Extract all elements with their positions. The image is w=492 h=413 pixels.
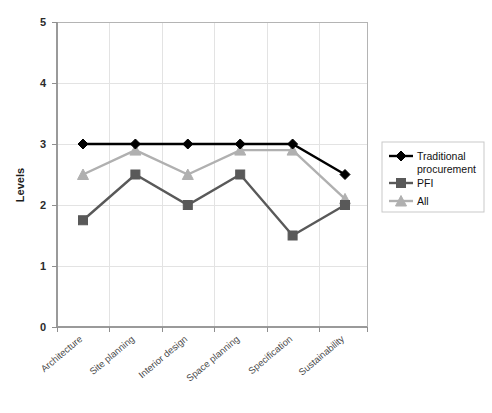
x-tick-label: Space planning <box>184 333 241 384</box>
legend-label: Traditional <box>417 150 466 162</box>
line-chart: 5 4 3 2 1 0 Levels Architecture Site pla… <box>0 0 492 413</box>
data-point-marker <box>288 231 297 240</box>
data-point-marker <box>341 201 350 210</box>
data-point-marker <box>183 201 192 210</box>
x-tick-label: Specification <box>246 333 294 376</box>
legend-label: procurement <box>417 163 476 175</box>
data-point-marker <box>236 170 245 179</box>
y-axis-tick-labels: 5 4 3 2 1 0 <box>40 16 47 333</box>
legend-marker-square-icon <box>397 179 406 188</box>
x-axis-ticks <box>57 327 367 332</box>
y-tick-label: 5 <box>40 16 46 28</box>
x-tick-label: Interior design <box>136 333 189 380</box>
y-tick-label: 1 <box>40 260 46 272</box>
legend-label: PFI <box>417 177 433 189</box>
x-tick-label: Sustainability <box>296 333 346 378</box>
data-point-marker <box>79 216 88 225</box>
y-tick-label: 2 <box>40 199 46 211</box>
chart-canvas: 5 4 3 2 1 0 Levels Architecture Site pla… <box>0 0 492 413</box>
legend-label: All <box>417 195 429 207</box>
data-point-marker <box>131 170 140 179</box>
y-tick-label: 4 <box>40 77 47 89</box>
x-tick-label: Architecture <box>38 333 84 374</box>
x-tick-label: Site planning <box>87 333 136 377</box>
y-tick-label: 3 <box>40 138 46 150</box>
y-axis-title: Levels <box>14 168 26 202</box>
x-axis-category-labels: Architecture Site planning Interior desi… <box>38 333 346 384</box>
y-axis-ticks <box>52 22 57 327</box>
y-tick-label: 0 <box>40 321 46 333</box>
